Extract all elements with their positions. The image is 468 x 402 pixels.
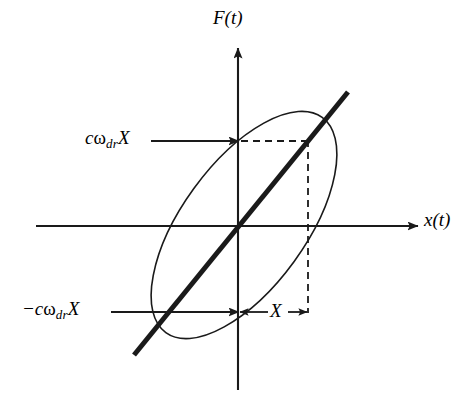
upper-label-variable: X (118, 127, 130, 148)
horizontal-axis-label: x(t) (424, 210, 450, 229)
lower-label-prefix: −c (22, 298, 43, 319)
figure-canvas (0, 0, 468, 402)
lower-label-subscript: dr (56, 307, 68, 322)
lower-label-omega: ω (43, 298, 56, 319)
lower-label-variable: X (68, 298, 80, 319)
upper-label-subscript: dr (106, 136, 118, 151)
vertical-axis-label: F(t) (213, 8, 243, 27)
upper-force-amplitude-label: cωdrX (85, 128, 130, 150)
hysteresis-figure: F(t) x(t) cωdrX −cωdrX X (0, 0, 468, 402)
upper-label-omega: ω (93, 127, 106, 148)
displacement-amplitude-label: X (270, 301, 282, 320)
lower-force-amplitude-label: −cωdrX (22, 299, 79, 321)
